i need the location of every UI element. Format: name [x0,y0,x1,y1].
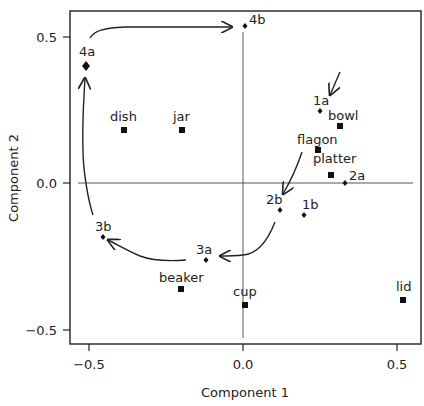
label-bowl: bowl [328,108,358,123]
x-tick-label: 0.0 [233,357,254,372]
label-1b: 1b [302,197,319,212]
arrow-3a-to-3b [108,240,186,261]
point-2b [278,207,283,213]
point-4b [243,23,248,29]
label-cup: cup [233,284,257,299]
x-tick-label: −0.5 [73,357,105,372]
arrow-3b-to-4a [83,78,93,215]
x-axis [89,344,397,351]
label-beaker: beaker [159,270,204,285]
y-tick-label: 0.0 [36,176,57,191]
point-lid [400,297,406,303]
label-platter: platter [313,151,357,166]
label-lid: lid [396,279,411,294]
label-3a: 3a [196,242,212,257]
point-cup [242,302,248,308]
label-dish: dish [110,109,137,124]
point-platter [328,172,334,178]
label-jar: jar [172,109,191,124]
point-4a [82,61,90,71]
arrow-into-1a [330,72,340,95]
x-axis-label: Component 1 [201,385,289,400]
point-dish [121,127,127,133]
label-3b: 3b [95,219,112,234]
label-2b: 2b [266,192,283,207]
y-axis-label: Component 2 [6,134,21,222]
y-axis [63,37,70,330]
y-tick-label: −0.5 [25,323,57,338]
point-2a [343,180,348,186]
point-3a [204,257,209,263]
x-tick-label: 0.5 [387,357,408,372]
arrow-flagon-to-2b [283,152,302,194]
point-1a [318,108,323,114]
arrow-4a-to-4b [90,27,232,38]
point-jar [179,127,185,133]
point-bowl [337,123,343,129]
point-labels: 4a 4b dish jar 1a bowl flagon platter 2a… [79,12,411,299]
label-1a: 1a [313,93,329,108]
point-beaker [178,286,184,292]
label-flagon: flagon [297,132,338,147]
label-4a: 4a [79,44,95,59]
point-3b [101,234,106,240]
scatter-chart: −0.5 0.0 0.5 0.5 0.0 −0.5 Component 1 Co… [0,0,424,406]
arrow-2b-to-3a [220,222,275,256]
point-1b [302,212,307,218]
label-2a: 2a [349,168,365,183]
label-4b: 4b [249,12,266,27]
y-tick-label: 0.5 [36,30,57,45]
